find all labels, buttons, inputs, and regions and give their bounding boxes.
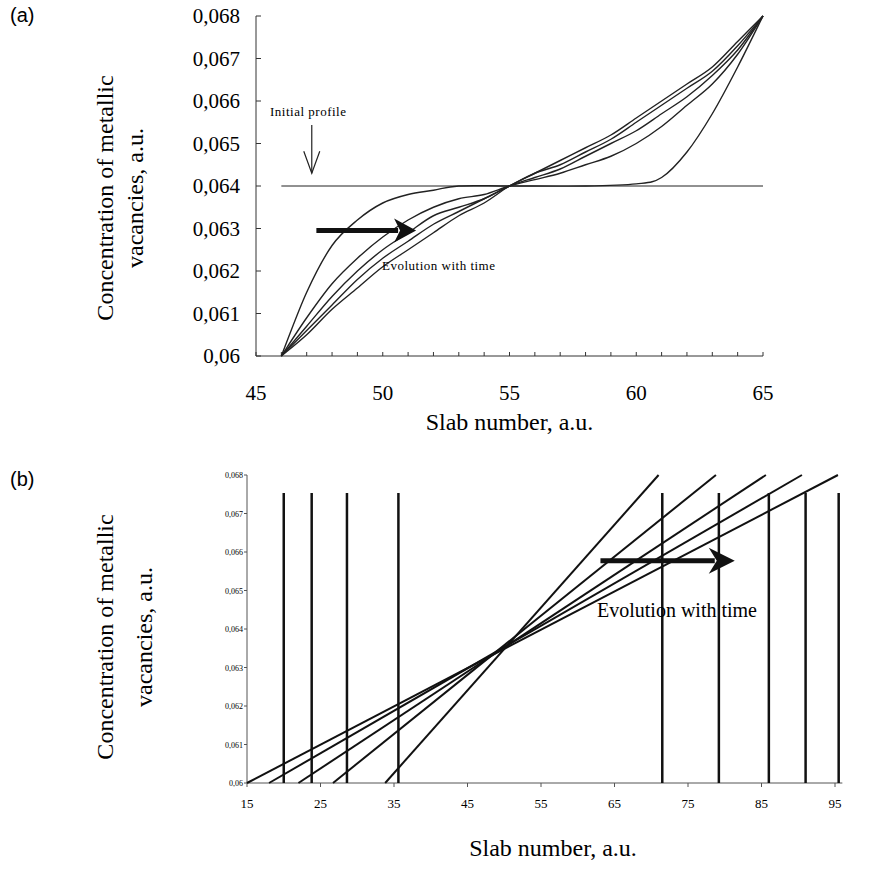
y-axis-title-b-line1: Concentration of metallic — [92, 514, 118, 759]
y-tick-label-b: 0,062 — [225, 702, 243, 711]
x-axis-title-b: Slab number, a.u. — [469, 835, 637, 861]
y-tick-label-a: 0,063 — [193, 217, 240, 241]
annotation-evolution-a: Evolution with time — [382, 258, 496, 273]
series-line-profile-4 — [269, 475, 802, 783]
series-line-profile-5 — [247, 475, 838, 783]
y-tick-label-a: 0,065 — [193, 132, 240, 156]
x-tick-label-a: 45 — [246, 381, 267, 405]
chart-a: 0,060,0610,0620,0630,0640,0650,0660,0670… — [92, 4, 774, 435]
y-tick-label-b: 0,065 — [225, 587, 243, 596]
panel-label-b: (b) — [10, 468, 34, 490]
series-line-profile-1 — [385, 475, 658, 783]
x-tick-label-a: 60 — [626, 381, 647, 405]
x-tick-label-b: 35 — [388, 796, 401, 811]
y-axis-title-b-line2: vacancies, a.u. — [131, 567, 157, 707]
y-tick-label-b: 0,066 — [225, 548, 243, 557]
x-axis-title-a: Slab number, a.u. — [426, 409, 594, 435]
y-axis-title-a-line1: Concentration of metallic — [92, 75, 118, 320]
x-tick-label-b: 75 — [682, 796, 695, 811]
y-tick-label-a: 0,064 — [193, 174, 241, 198]
x-tick-label-a: 55 — [499, 381, 520, 405]
y-tick-label-a: 0,062 — [193, 259, 240, 283]
y-axis-title-a-line2: vacancies, a.u. — [122, 128, 148, 268]
y-tick-label-a: 0,067 — [193, 47, 240, 71]
series-line-profile-3 — [298, 475, 765, 783]
y-tick-label-a: 0,066 — [193, 89, 240, 113]
series-line-profile-2 — [333, 475, 716, 783]
chart-b: 0,060,0610,0620,0630,0640,0650,0660,0670… — [92, 471, 842, 861]
y-tick-label-b: 0,067 — [225, 510, 243, 519]
x-tick-label-b: 15 — [241, 796, 254, 811]
arrow-right-icon — [316, 219, 416, 243]
x-tick-label-a: 65 — [753, 381, 774, 405]
y-tick-label-b: 0,061 — [225, 741, 243, 750]
figure: (a) 0,060,0610,0620,0630,0640,0650,0660,… — [0, 0, 871, 895]
annotation-evolution-b: Evolution with time — [597, 599, 757, 621]
y-tick-label-a: 0,061 — [193, 302, 240, 326]
y-tick-label-b: 0,064 — [225, 625, 243, 634]
y-tick-label-b: 0,06 — [229, 779, 243, 788]
x-tick-label-a: 50 — [372, 381, 393, 405]
y-tick-label-a: 0,068 — [193, 4, 240, 28]
y-tick-label-b: 0,068 — [225, 471, 243, 480]
x-tick-label-b: 85 — [755, 796, 768, 811]
annotation-initial-profile: Initial profile — [270, 104, 346, 119]
x-tick-label-b: 25 — [314, 796, 327, 811]
y-tick-label-b: 0,063 — [225, 664, 243, 673]
arrow-down-icon — [304, 125, 320, 173]
y-tick-label-a: 0,06 — [203, 344, 240, 368]
x-tick-label-b: 55 — [535, 796, 548, 811]
x-tick-label-b: 95 — [829, 796, 842, 811]
x-tick-label-b: 45 — [461, 796, 474, 811]
x-tick-label-b: 65 — [608, 796, 621, 811]
panel-label-a: (a) — [10, 4, 34, 26]
